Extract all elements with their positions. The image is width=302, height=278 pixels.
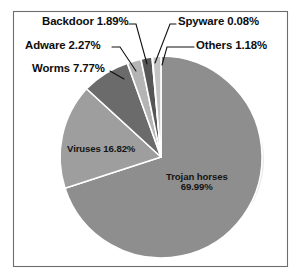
slice-label-viruses: Viruses 16.82% (67, 144, 135, 154)
slice-label-backdoor: Backdoor 1.89% (42, 16, 129, 28)
slice-label-trojan-horses-value: 69.99% (166, 182, 228, 192)
pie-slices (60, 56, 262, 258)
slice-label-trojan-horses: Trojan horses 69.99% (166, 172, 228, 192)
slice-label-others: Others 1.18% (196, 40, 267, 52)
slice-label-spyware: Spyware 0.08% (178, 16, 259, 28)
slice-label-worms: Worms 7.77% (32, 63, 105, 75)
slice-label-adware: Adware 2.27% (25, 40, 100, 52)
pie-chart-figure: Backdoor 1.89% Spyware 0.08% Adware 2.27… (0, 0, 302, 278)
